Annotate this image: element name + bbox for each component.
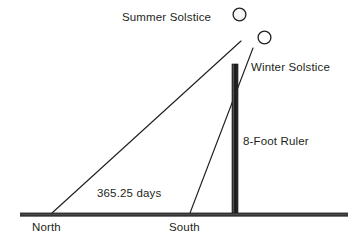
ground-baseline bbox=[20, 213, 348, 217]
solstice-diagram: Summer Solstice Winter Solstice 8-Foot R… bbox=[0, 0, 362, 250]
sun-circle-icon-winter bbox=[258, 31, 271, 44]
label-south: South bbox=[169, 221, 200, 234]
label-eight-foot-ruler: 8-Foot Ruler bbox=[243, 135, 309, 148]
diagram-canvas bbox=[0, 0, 362, 250]
sun-circle-icon-summer bbox=[233, 8, 246, 21]
winter-solstice-ray bbox=[190, 48, 253, 213]
label-winter-solstice: Winter Solstice bbox=[251, 61, 330, 74]
label-365-25-days: 365.25 days bbox=[97, 187, 161, 200]
eight-foot-ruler-bar bbox=[232, 64, 238, 214]
label-north: North bbox=[32, 221, 61, 234]
label-summer-solstice: Summer Solstice bbox=[122, 11, 211, 24]
